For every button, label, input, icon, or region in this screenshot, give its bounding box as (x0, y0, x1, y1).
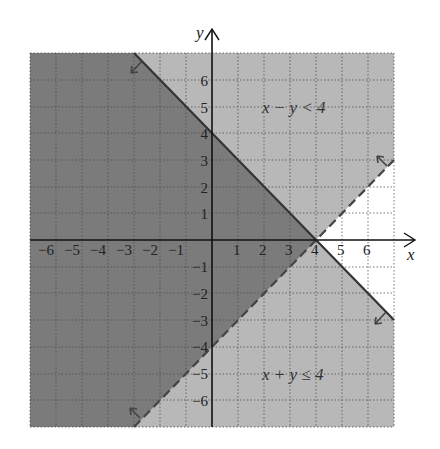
svg-text:−6: −6 (38, 242, 54, 258)
svg-text:2: 2 (259, 242, 267, 258)
svg-text:−1: −1 (192, 259, 208, 275)
svg-text:−3: −3 (192, 313, 208, 329)
svg-text:6: 6 (201, 73, 209, 89)
svg-text:−4: −4 (90, 242, 106, 258)
svg-text:5: 5 (337, 242, 345, 258)
svg-text:5: 5 (201, 100, 209, 116)
svg-text:−3: −3 (116, 242, 132, 258)
inequality-label-top: x − y < 4 (261, 98, 326, 117)
svg-text:−2: −2 (192, 286, 208, 302)
svg-text:4: 4 (201, 126, 209, 142)
svg-text:−4: −4 (192, 339, 208, 355)
svg-text:1: 1 (233, 242, 241, 258)
inequality-graph: x y −6 −5 −4 −3 −2 −1 1 2 3 4 5 6 1 2 3 … (0, 0, 440, 449)
x-axis-label: x (406, 245, 415, 264)
svg-text:−6: −6 (192, 393, 208, 409)
y-axis-label: y (194, 23, 204, 42)
svg-text:1: 1 (201, 206, 209, 222)
svg-text:6: 6 (363, 242, 371, 258)
svg-text:−5: −5 (192, 366, 208, 382)
svg-text:−1: −1 (168, 242, 184, 258)
svg-text:3: 3 (285, 242, 293, 258)
svg-text:3: 3 (201, 153, 209, 169)
svg-text:2: 2 (201, 180, 209, 196)
svg-text:−5: −5 (64, 242, 80, 258)
inequality-label-bottom: x + y ≤ 4 (261, 365, 324, 384)
svg-text:−2: −2 (142, 242, 158, 258)
svg-text:4: 4 (311, 242, 319, 258)
